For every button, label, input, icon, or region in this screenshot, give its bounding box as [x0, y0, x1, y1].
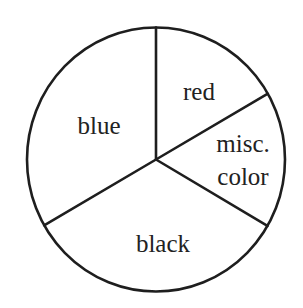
slice-label-black: black — [136, 230, 191, 257]
slice-label-misc-color-line2: color — [217, 163, 269, 190]
slice-label-misc-color-line1: misc. — [216, 130, 269, 157]
slice-label-blue: blue — [77, 112, 120, 139]
pie-chart: red misc. color black blue — [0, 0, 303, 308]
slice-label-red: red — [183, 78, 215, 105]
